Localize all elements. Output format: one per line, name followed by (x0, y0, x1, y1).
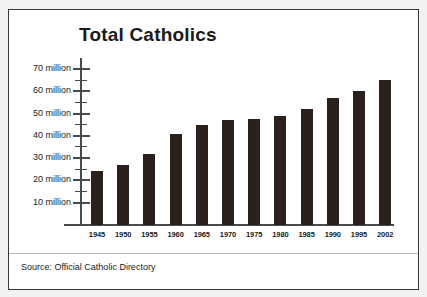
x-tick-label: 2002 (370, 230, 400, 239)
bar-2002 (379, 80, 391, 225)
bar-1990 (327, 98, 339, 225)
figure-canvas: Total Catholics 10 million20 million30 m… (0, 0, 427, 297)
bar-1980 (274, 116, 286, 225)
bar-1945 (91, 171, 103, 225)
bar-1970 (222, 120, 234, 225)
chart-frame: Total Catholics 10 million20 million30 m… (8, 9, 419, 290)
bar-1955 (143, 154, 155, 225)
bar-1975 (248, 119, 260, 225)
bar-1950 (117, 165, 129, 225)
source-note: Source: Official Catholic Directory (21, 262, 155, 272)
bars-layer (9, 10, 418, 289)
source-divider (9, 253, 418, 254)
bar-1995 (353, 91, 365, 225)
bar-1965 (196, 125, 208, 225)
bar-1985 (301, 109, 313, 225)
plot-area: 10 million20 million30 million40 million… (9, 10, 418, 289)
bar-1960 (170, 134, 182, 225)
